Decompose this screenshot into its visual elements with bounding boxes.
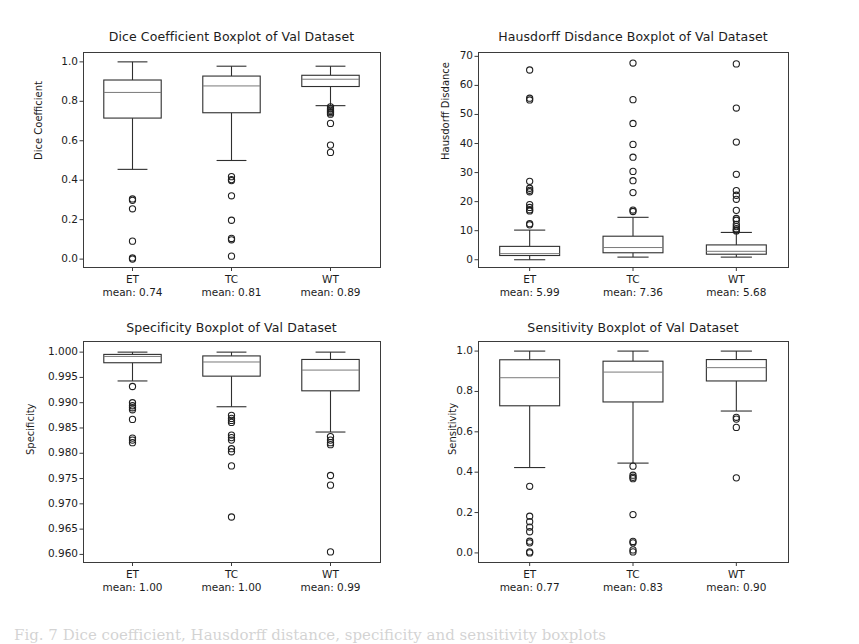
x-tick-label: TC [573,568,693,581]
mean-label: mean: 0.83 [573,581,693,594]
y-tick-label: 0.8 [413,384,473,396]
mean-label: mean: 0.77 [470,581,590,594]
y-tick-label: 0.2 [413,506,473,518]
x-tick-group-sensitivity-et: ETmean: 0.77 [470,568,590,594]
x-tick-label: ET [470,568,590,581]
box-sensitivity-et [500,351,560,556]
y-tick-label: 0.4 [413,465,473,477]
y-tick-label: 1.0 [413,344,473,356]
y-tick-label: 0.6 [413,425,473,437]
box-sensitivity-tc [603,351,663,555]
x-tick-group-sensitivity-tc: TCmean: 0.83 [573,568,693,594]
mean-label: mean: 0.90 [676,581,796,594]
x-tick-label: WT [676,568,796,581]
y-tick-label: 0.0 [413,546,473,558]
box-sensitivity-wt [706,351,766,481]
x-tick-group-sensitivity-wt: WTmean: 0.90 [676,568,796,594]
figure-caption: Fig. 7 Dice coefficient, Hausdorff dista… [14,626,606,644]
